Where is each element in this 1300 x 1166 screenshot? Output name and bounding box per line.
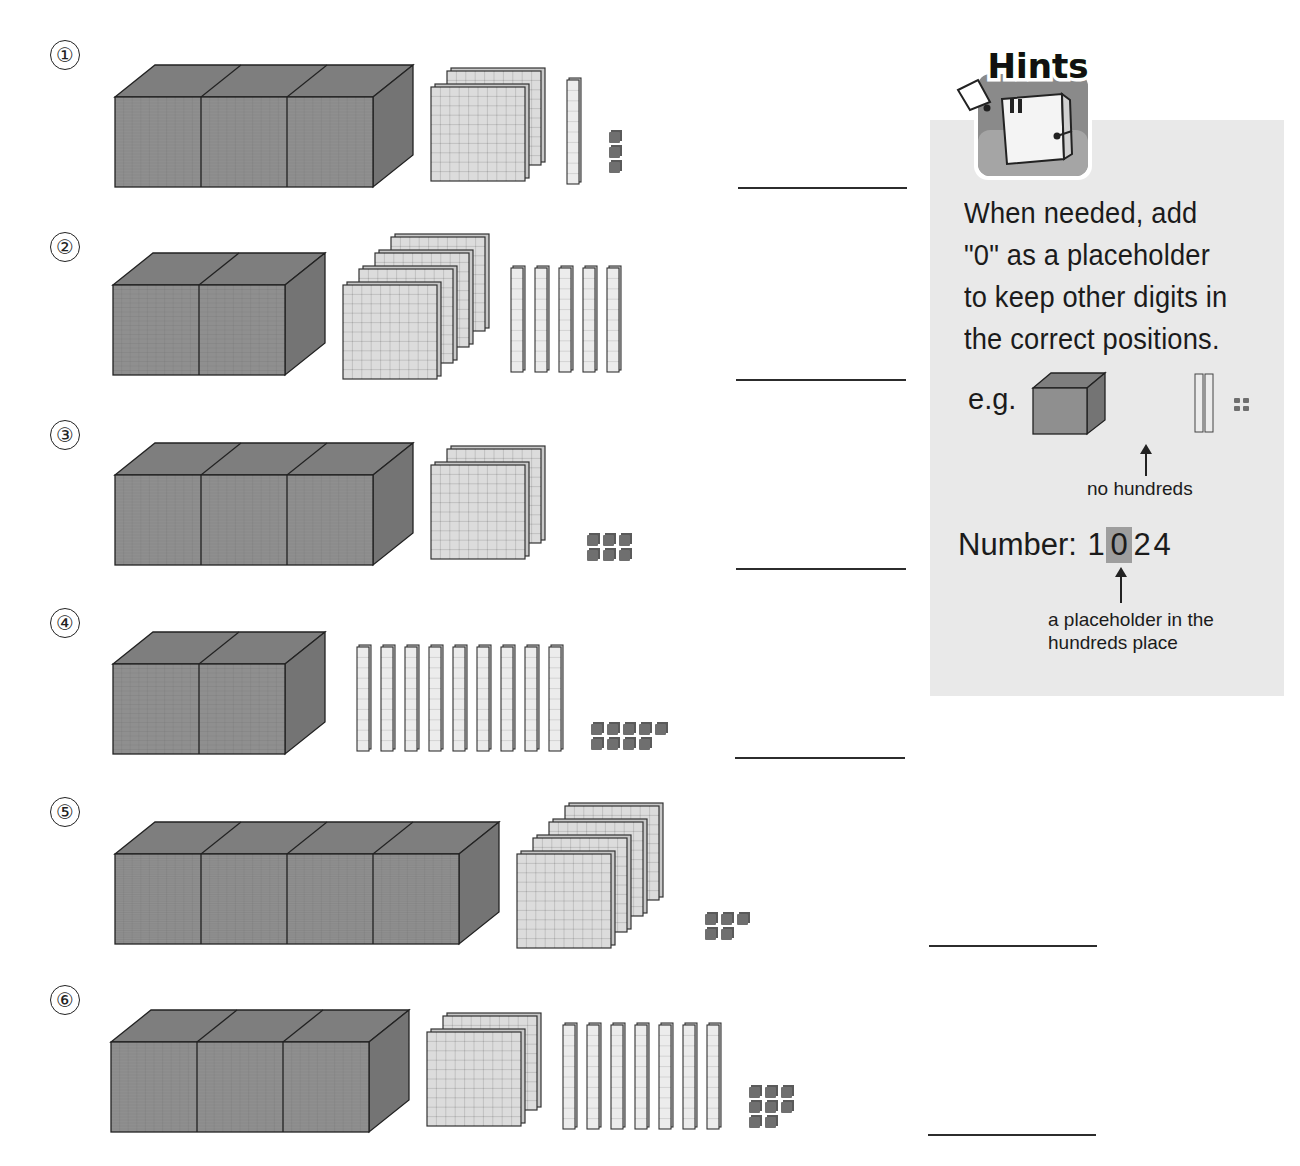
number-example: 1 0 2 4 [1086,527,1172,563]
hints-line-4: the correct positions. [964,318,1265,360]
base-ten-blocks-1 [0,0,920,1166]
hints-line-1: When needed, add [964,192,1265,234]
answer-line-3[interactable] [736,568,906,570]
answer-line-4[interactable] [735,757,905,759]
placeholder-caption: a placeholder in the hundreds place [1048,608,1214,654]
example-blocks [1028,370,1268,440]
placeholder-caption-line-1: a placeholder in the [1048,608,1214,631]
hints-badge-icon: Hints Hints [952,44,1102,184]
digit-tens: 2 [1132,527,1152,563]
digit-ones: 4 [1152,527,1172,563]
hints-line-3: to keep other digits in [964,276,1265,318]
no-hundreds-arrow-icon [1145,452,1147,476]
answer-line-1[interactable] [738,187,907,189]
example-label: e.g. [968,383,1016,416]
placeholder-caption-line-2: hundreds place [1048,631,1214,654]
digit-hundreds-placeholder: 0 [1106,527,1132,563]
answer-line-6[interactable] [928,1134,1096,1136]
hints-line-2: "0" as a placeholder [964,234,1265,276]
hints-title-fill: Hints [988,46,1089,86]
answer-line-2[interactable] [736,379,906,381]
number-label: Number: [958,527,1077,563]
digit-thousands: 1 [1086,527,1106,563]
no-hundreds-caption: no hundreds [1087,477,1193,500]
answer-line-5[interactable] [929,945,1097,947]
placeholder-arrow-icon [1120,575,1122,603]
hints-description: When needed, add "0" as a placeholder to… [964,192,1265,360]
